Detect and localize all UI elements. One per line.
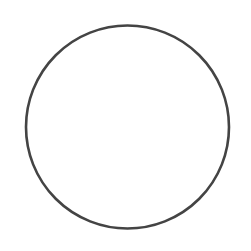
diagram-svg [0, 0, 251, 251]
circle-outline [26, 26, 229, 229]
diagram-canvas [0, 0, 251, 251]
